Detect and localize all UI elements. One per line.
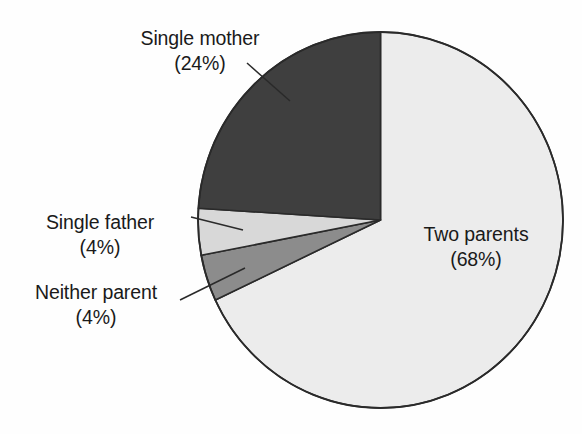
slice-label-single-father-name: Single father (16, 210, 184, 235)
slice-label-two-parents-name: Two parents (396, 222, 556, 247)
slice-label-single-father: Single father (4%) (16, 210, 184, 260)
slice-label-single-father-percent: (4%) (16, 235, 184, 260)
slice-label-single-mother-name: Single mother (112, 26, 288, 51)
pie-chart-figure: Single mother (24%) Single father (4%) N… (0, 0, 582, 434)
slice-label-single-mother: Single mother (24%) (112, 26, 288, 76)
slice-label-neither-parent-name: Neither parent (4, 280, 188, 305)
slice-label-two-parents-percent: (68%) (396, 247, 556, 272)
slice-label-two-parents: Two parents (68%) (396, 222, 556, 272)
slice-label-single-mother-percent: (24%) (112, 51, 288, 76)
slice-label-neither-parent: Neither parent (4%) (4, 280, 188, 330)
slice-label-neither-parent-percent: (4%) (4, 305, 188, 330)
pie-slices (198, 32, 563, 408)
